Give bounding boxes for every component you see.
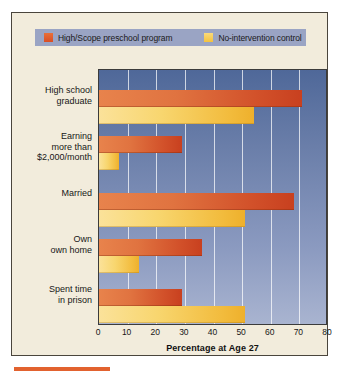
x-tick-0: 0 [96, 327, 101, 337]
category-label-earning-more-than: Earningmore than$2,000/month [20, 131, 92, 163]
x-tick-50: 50 [236, 327, 245, 337]
bar-program-4 [99, 289, 182, 306]
bar-program-1 [99, 136, 182, 153]
category-label-married: Married [20, 188, 92, 199]
legend-item-control: No-intervention control [204, 29, 301, 46]
x-axis-tick-labels: 01020304050607080 [98, 327, 327, 339]
chart-figure: High/Scope preschool program No-interven… [0, 0, 341, 377]
x-tick-30: 30 [179, 327, 188, 337]
accent-rule [14, 367, 110, 371]
bar-program-2 [99, 193, 294, 210]
chart-panel: High/Scope preschool program No-interven… [11, 12, 328, 356]
x-tick-20: 20 [151, 327, 160, 337]
category-label-own-own-home: Ownown home [20, 234, 92, 255]
x-axis-title: Percentage at Age 27 [98, 343, 327, 353]
red-swatch-icon [44, 33, 53, 42]
legend-label-high-scope: High/Scope preschool program [58, 33, 172, 43]
x-tick-40: 40 [208, 327, 217, 337]
gridline-70 [299, 70, 300, 324]
bar-control-2 [99, 210, 245, 227]
category-axis-labels: High schoolgraduate Earningmore than$2,0… [20, 69, 92, 325]
x-tick-10: 10 [122, 327, 131, 337]
x-tick-80: 80 [322, 327, 331, 337]
x-tick-70: 70 [294, 327, 303, 337]
bar-control-1 [99, 153, 119, 170]
bar-control-3 [99, 256, 139, 273]
category-label-spent-time-in-prison: Spent timein prison [20, 284, 92, 305]
x-tick-60: 60 [265, 327, 274, 337]
bar-program-3 [99, 239, 202, 256]
bar-control-0 [99, 107, 254, 124]
bar-program-0 [99, 90, 302, 107]
bar-control-4 [99, 306, 245, 323]
legend-label-control: No-intervention control [218, 33, 301, 43]
chart-legend: High/Scope preschool program No-interven… [35, 29, 306, 46]
yellow-swatch-icon [204, 33, 213, 42]
plot-wrapper [98, 69, 327, 325]
plot-area [98, 69, 327, 325]
category-label-high-school-graduate: High schoolgraduate [20, 85, 92, 106]
legend-item-high-scope: High/Scope preschool program [44, 29, 172, 46]
